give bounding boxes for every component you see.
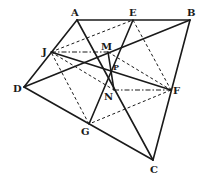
- label-m: M: [101, 41, 112, 52]
- label-c: C: [150, 164, 158, 175]
- label-j: J: [41, 46, 47, 57]
- label-e: E: [129, 7, 137, 18]
- label-g: G: [81, 126, 90, 137]
- label-a: A: [70, 7, 79, 18]
- label-b: B: [187, 7, 195, 18]
- label-n: N: [104, 91, 113, 102]
- diagonal-bd: [24, 20, 190, 87]
- label-d: D: [13, 83, 22, 94]
- geometry-diagram: A E B J M P D N F G C: [0, 0, 205, 182]
- label-f: F: [173, 85, 180, 96]
- label-p: P: [113, 62, 119, 72]
